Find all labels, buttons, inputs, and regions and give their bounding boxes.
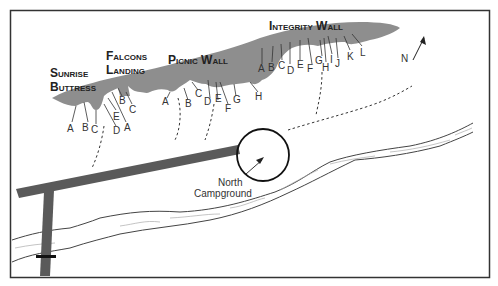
road xyxy=(16,145,240,276)
north-label: N xyxy=(401,53,408,64)
route-label: B xyxy=(82,122,89,133)
route-label: J xyxy=(335,58,340,69)
campground-circle xyxy=(237,129,289,181)
route-label: D xyxy=(287,65,294,76)
wall-name-falcons: Falcons xyxy=(106,49,148,63)
route-label: F xyxy=(225,103,231,114)
route-label: C xyxy=(278,60,285,71)
route-label: A xyxy=(258,63,265,74)
route-label: I xyxy=(330,54,333,65)
wall-name-landing: Landing xyxy=(106,63,145,77)
route-label: H xyxy=(255,91,262,102)
route-label: F xyxy=(307,63,313,74)
north-arrow-icon xyxy=(413,36,426,60)
route-label: A xyxy=(162,96,169,107)
route-label: D xyxy=(204,96,211,107)
route-label: C xyxy=(129,104,136,115)
route-label: G xyxy=(233,94,241,105)
gate-marker xyxy=(36,255,56,258)
wall-name-integrity: Integrity Wall xyxy=(269,19,343,33)
route-label: A xyxy=(124,122,131,133)
route-label: B xyxy=(268,62,275,73)
wall-name-sunrise: Sunrise xyxy=(50,66,89,80)
arrowhead-icon xyxy=(256,157,264,164)
route-label: K xyxy=(347,51,354,62)
route-label: A xyxy=(67,123,74,134)
route-label: E xyxy=(297,59,304,70)
route-label: C xyxy=(91,124,98,135)
wall-name-buttress: Buttress xyxy=(50,80,97,94)
route-label: C xyxy=(195,88,202,99)
crag-map: Sunrise Buttress Falcons Landing Picnic … xyxy=(0,0,498,286)
route-label: E xyxy=(113,111,120,122)
route-label: B xyxy=(185,98,192,109)
route-label: D xyxy=(113,125,120,136)
route-label: H xyxy=(322,62,329,73)
campground-label-line1: North xyxy=(218,177,242,188)
campground-label-line2: Campground xyxy=(194,188,252,199)
route-label: E xyxy=(215,93,222,104)
wall-name-picnic: Picnic Wall xyxy=(168,53,228,67)
route-label: B xyxy=(119,95,126,106)
route-label: L xyxy=(360,47,366,58)
